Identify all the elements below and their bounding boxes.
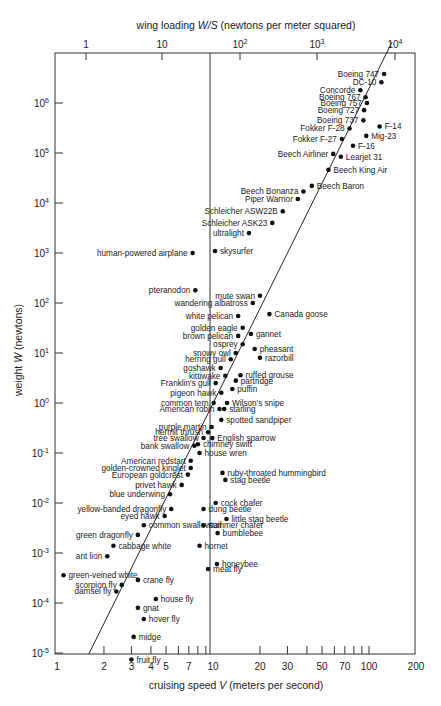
point-marker-icon bbox=[233, 378, 238, 383]
point-label: Franklin's gull bbox=[161, 379, 211, 388]
point-label: house fly bbox=[161, 595, 195, 604]
y-axis-title: weight W (newtons) bbox=[12, 304, 24, 397]
data-point: Beech King Air bbox=[326, 166, 387, 175]
data-point: Fokker F-27 bbox=[293, 135, 344, 144]
point-label: gannet bbox=[256, 330, 282, 339]
point-label: F-16 bbox=[358, 142, 375, 151]
point-marker-icon bbox=[218, 366, 223, 371]
point-label: wandering albatross bbox=[174, 299, 248, 308]
data-point: privet hawk bbox=[135, 481, 184, 490]
data-point: green-veined white bbox=[61, 571, 138, 580]
top-tick-label: 103 bbox=[309, 38, 324, 50]
point-label: fruit fly bbox=[136, 656, 161, 665]
point-marker-icon bbox=[249, 332, 254, 337]
point-marker-icon bbox=[270, 221, 275, 226]
point-label: crane fly bbox=[143, 576, 175, 585]
point-marker-icon bbox=[267, 312, 272, 317]
point-label: meat fly bbox=[213, 565, 243, 574]
y-tick-label: 10-4 bbox=[32, 597, 49, 609]
point-label: spotted sandpiper bbox=[226, 416, 291, 425]
flight-scaling-chart: wing loading W/S (newtons per meter squa… bbox=[0, 0, 441, 706]
x-tick-label: 50 bbox=[316, 661, 328, 672]
point-label: pteranodon bbox=[149, 286, 191, 295]
point-label: human-powered airplane bbox=[97, 249, 188, 258]
point-marker-icon bbox=[105, 554, 110, 559]
point-label: Beech Baron bbox=[317, 182, 365, 191]
y-tick-label: 104 bbox=[34, 197, 49, 209]
point-label: hover fly bbox=[149, 615, 181, 624]
y-tick-label: 102 bbox=[34, 297, 49, 309]
x-tick-label: 70 bbox=[339, 661, 351, 672]
point-marker-icon bbox=[247, 231, 252, 236]
point-label: Beech King Air bbox=[333, 166, 387, 175]
point-marker-icon bbox=[228, 357, 233, 362]
point-marker-icon bbox=[223, 373, 228, 378]
point-label: pheasant bbox=[260, 345, 294, 354]
point-label: stag beetle bbox=[230, 476, 271, 485]
point-label: razorbill bbox=[265, 354, 294, 363]
point-marker-icon bbox=[365, 101, 370, 106]
point-label: blue underwing bbox=[109, 490, 165, 499]
data-point: hover fly bbox=[141, 615, 180, 624]
data-point: Beech Baron bbox=[310, 182, 365, 191]
data-point: pheasant bbox=[252, 345, 294, 354]
data-point: gannet bbox=[249, 330, 282, 339]
point-marker-icon bbox=[280, 209, 285, 214]
data-point: ant lion bbox=[76, 552, 110, 561]
point-marker-icon bbox=[339, 154, 344, 159]
point-label: osprey bbox=[213, 340, 238, 349]
x-tick-label: 20 bbox=[254, 661, 266, 672]
point-marker-icon bbox=[169, 507, 174, 512]
point-label: Learjet 31 bbox=[346, 153, 383, 162]
point-label: hornet bbox=[205, 542, 229, 551]
point-marker-icon bbox=[217, 407, 222, 412]
point-label: midge bbox=[139, 633, 162, 642]
data-point: human-powered airplane bbox=[97, 249, 195, 258]
y-tick-label: 103 bbox=[34, 247, 49, 259]
point-label: chimney swift bbox=[203, 440, 253, 449]
point-marker-icon bbox=[168, 492, 173, 497]
point-marker-icon bbox=[131, 635, 136, 640]
point-marker-icon bbox=[188, 466, 193, 471]
x-tick-label: 7 bbox=[186, 661, 192, 672]
point-label: cabbage white bbox=[118, 542, 171, 551]
point-label: Mig-23 bbox=[371, 132, 396, 141]
point-marker-icon bbox=[347, 126, 352, 131]
data-point: bumblebee bbox=[215, 529, 263, 538]
data-points: Boeing 747DC-10ConcordeBoeing 767Boeing … bbox=[61, 70, 402, 665]
x-tick-label: 5 bbox=[163, 661, 169, 672]
point-marker-icon bbox=[258, 356, 263, 361]
point-marker-icon bbox=[197, 451, 202, 456]
point-label: damsel fly bbox=[74, 587, 112, 596]
point-label: eyed hawk bbox=[121, 512, 161, 521]
point-marker-icon bbox=[236, 334, 241, 339]
point-marker-icon bbox=[162, 514, 167, 519]
point-label: bumblebee bbox=[223, 529, 264, 538]
top-tick-label: 104 bbox=[387, 38, 402, 50]
data-point: blue underwing bbox=[109, 490, 172, 499]
data-point: chimney swift bbox=[196, 440, 253, 449]
point-marker-icon bbox=[301, 189, 306, 194]
point-marker-icon bbox=[219, 418, 224, 423]
top-tick-label: 1 bbox=[83, 39, 89, 50]
point-label: F-14 bbox=[385, 122, 402, 131]
top-tick-label: 102 bbox=[232, 38, 247, 50]
data-point: Schleicher ASK23 bbox=[202, 219, 275, 228]
data-point: dung beetle bbox=[201, 505, 252, 514]
point-marker-icon bbox=[136, 533, 141, 538]
data-point: European goldcrest bbox=[112, 471, 190, 480]
point-marker-icon bbox=[220, 471, 225, 476]
data-point: Schleicher ASW22B bbox=[204, 207, 285, 216]
point-label: bank swallow bbox=[141, 442, 190, 451]
y-axis-ticks: 10-510-410-310-210-110010110210310410510… bbox=[32, 97, 63, 659]
point-marker-icon bbox=[141, 523, 146, 528]
point-marker-icon bbox=[119, 583, 124, 588]
point-marker-icon bbox=[186, 472, 191, 477]
data-point: house wren bbox=[197, 449, 247, 458]
point-marker-icon bbox=[111, 543, 116, 548]
data-point: DC-10 bbox=[353, 78, 384, 87]
point-label: pigeon hawk bbox=[170, 389, 217, 398]
point-marker-icon bbox=[296, 197, 301, 202]
point-marker-icon bbox=[351, 143, 356, 148]
data-point: cabbage white bbox=[111, 542, 172, 551]
